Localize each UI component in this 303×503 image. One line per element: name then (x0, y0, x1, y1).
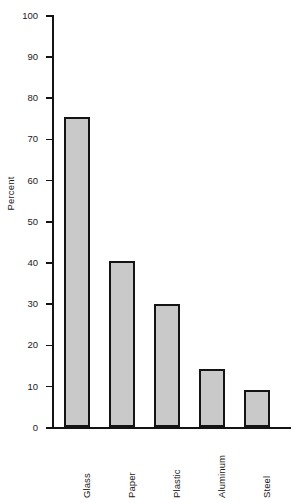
y-axis-tick: 0 (46, 427, 52, 429)
y-axis-title-text: Percent (5, 162, 16, 226)
bar (154, 304, 180, 427)
y-axis-tick-label: 80 (8, 93, 38, 103)
y-axis-tick: 40 (46, 262, 52, 264)
y-axis-tick: 20 (46, 345, 52, 347)
x-axis-tick-label: Plastic (172, 469, 182, 498)
y-axis-tick: 70 (46, 139, 52, 141)
bar (244, 390, 270, 427)
y-axis-tick-label: 20 (8, 341, 38, 351)
x-axis-tick-label: Steel (262, 476, 272, 498)
y-axis-tick-label: 60 (8, 176, 38, 186)
x-axis-tick-label: Glass (82, 473, 92, 498)
y-axis-tick: 50 (46, 221, 52, 223)
y-axis-tick: 80 (46, 97, 52, 99)
y-axis-tick: 10 (46, 386, 52, 388)
y-axis-tick-label: 90 (8, 52, 38, 62)
y-axis-tick-label: 50 (8, 217, 38, 227)
bar-chart-figure: Percent 0102030405060708090100 GlassPape… (0, 0, 303, 503)
y-axis-tick-label: 0 (8, 423, 38, 433)
y-axis-tick: 60 (46, 180, 52, 182)
y-axis-tick-label: 40 (8, 258, 38, 268)
x-axis-tick-label-group: GlassPaperPlasticAluminumSteel (52, 436, 291, 503)
y-axis-tick: 90 (46, 56, 52, 58)
x-axis-tick-label: Paper (127, 472, 137, 498)
y-axis-tick-label: 10 (8, 382, 38, 392)
y-axis-tick: 100 (46, 15, 52, 17)
y-axis-spine (52, 15, 54, 429)
x-axis-tick-label: Aluminum (217, 455, 227, 498)
bar (109, 261, 135, 427)
bar (64, 117, 90, 427)
x-axis-spine (52, 427, 291, 429)
y-axis-tick-label: 30 (8, 299, 38, 309)
y-axis-tick: 30 (46, 303, 52, 305)
y-axis-tick-label: 100 (8, 11, 38, 21)
plot-area: 0102030405060708090100 (52, 15, 291, 429)
bar (199, 369, 225, 428)
y-axis-tick-label: 70 (8, 135, 38, 145)
